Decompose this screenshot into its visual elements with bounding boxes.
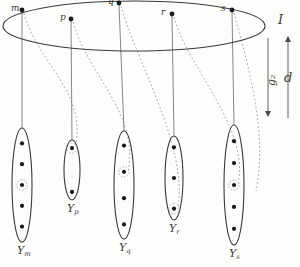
fiber-point	[122, 196, 126, 200]
fiber-projection-line	[172, 16, 174, 136]
index-point	[20, 8, 25, 13]
fiber-point	[232, 183, 236, 187]
g2-arrow-head	[265, 111, 271, 117]
map-curve	[24, 13, 77, 148]
fiber-point	[20, 141, 24, 145]
fiber-point	[20, 162, 24, 166]
figure-canvas: I d g₂ mpqrs YmYpYqYrYs	[0, 0, 300, 267]
index-point-label: r	[161, 7, 165, 17]
fiber-label: Yp	[67, 202, 79, 216]
distance-label: d	[284, 70, 292, 85]
fiber-label: Yq	[119, 241, 131, 255]
index-point	[117, 1, 122, 6]
index-point-label: s	[221, 3, 226, 13]
fiber-label-subscript: r	[176, 228, 179, 236]
fiber-point	[70, 190, 74, 194]
ellipses-layer	[3, 1, 265, 245]
fiber-point	[172, 145, 176, 149]
fiber-point	[172, 176, 176, 180]
map-curve	[121, 6, 179, 209]
map-label: g₂	[265, 75, 278, 86]
map-curve	[73, 22, 130, 172]
fiber-point	[122, 170, 126, 174]
fiber-point	[232, 227, 236, 231]
fiber-point	[172, 207, 176, 211]
index-point-label: m	[11, 3, 20, 13]
fiber-point	[122, 222, 126, 226]
d-arrow-head	[285, 36, 291, 42]
fiber-point	[20, 204, 24, 208]
map-curve	[174, 17, 240, 185]
index-point	[230, 8, 235, 13]
index-point-label: q	[108, 0, 114, 6]
fiber-label-subscript: m	[24, 250, 30, 258]
fiber-point	[20, 183, 24, 187]
fiber-point	[232, 139, 236, 143]
fiber-label: Ys	[229, 247, 240, 261]
fiber-label: Ym	[17, 244, 31, 258]
fiber-label-subscript: s	[236, 253, 240, 261]
fiber-label-subscript: q	[126, 247, 130, 255]
diagram-artwork	[0, 0, 300, 267]
fiber-label-subscript: p	[74, 208, 78, 216]
points-layer	[17, 1, 239, 231]
fiber-point	[232, 161, 236, 165]
index-set-label: I	[278, 12, 283, 27]
index-point-label: p	[60, 12, 66, 22]
index-point	[69, 17, 74, 22]
vertical-lines-layer	[22, 5, 234, 140]
map-curve	[234, 13, 260, 191]
fiber-point	[70, 146, 74, 150]
fiber-projection-line	[232, 12, 234, 125]
fiber-point	[20, 225, 24, 229]
index-point	[170, 12, 175, 17]
fiber-point	[232, 205, 236, 209]
fiber-label: Yr	[169, 222, 180, 236]
fiber-point	[122, 143, 126, 147]
fiber-projection-line	[71, 21, 72, 140]
